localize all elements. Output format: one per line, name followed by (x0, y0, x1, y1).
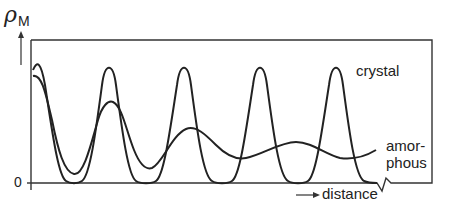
x-arrow-icon (296, 192, 320, 198)
amorphous-label-line1: amor- (386, 137, 427, 154)
y-axis-subscript: M (18, 13, 30, 29)
amorphous-curve (33, 76, 376, 174)
x-axis-label: distance (322, 186, 378, 201)
y-axis-symbol: ρ (4, 2, 17, 27)
amorphous-label-line2: phous (386, 154, 427, 171)
amorphous-label: amor- phous (386, 137, 427, 171)
crystal-curve (33, 64, 377, 183)
y-arrow-icon (18, 31, 24, 65)
zero-label: 0 (14, 175, 22, 189)
y-axis-label: ρM (4, 4, 29, 26)
crystal-label: crystal (356, 63, 399, 78)
density-diagram (0, 0, 449, 210)
